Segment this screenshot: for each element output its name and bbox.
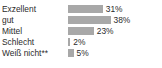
value-label-weiss-nicht: 5% (77, 48, 89, 59)
chart-title-remnant (2, 0, 72, 3)
chart-row-mittel: Mittel 23% (0, 26, 162, 37)
bar-track-exzellent: 31% (68, 5, 162, 14)
bar-gut (68, 16, 111, 24)
category-label-gut: gut (2, 15, 14, 26)
value-label-exzellent: 31% (106, 4, 123, 15)
chart-row-schlecht: Schlecht 2% (0, 37, 162, 48)
bar-track-gut: 38% (68, 16, 162, 25)
value-label-schlecht: 2% (73, 37, 85, 48)
value-label-mittel: 23% (97, 26, 114, 37)
chart-row-weiss-nicht: Weiß nicht** 5% (0, 48, 162, 59)
category-label-exzellent: Exzellent (2, 4, 36, 15)
chart-row-exzellent: Exzellent 31% (0, 4, 162, 15)
bar-exzellent (68, 5, 103, 13)
chart-row-gut: gut 38% (0, 15, 162, 26)
bar-weiss-nicht (68, 49, 74, 57)
bar-schlecht (68, 38, 70, 46)
value-label-gut: 38% (114, 15, 131, 26)
category-label-schlecht: Schlecht (2, 37, 34, 48)
category-label-mittel: Mittel (2, 26, 22, 37)
bar-track-schlecht: 2% (68, 38, 162, 47)
bar-track-weiss-nicht: 5% (68, 49, 162, 58)
chart-rows: Exzellent 31% gut 38% Mittel 23% Schlech… (0, 4, 162, 59)
category-label-weiss-nicht: Weiß nicht** (2, 48, 48, 59)
bar-track-mittel: 23% (68, 27, 162, 36)
bar-mittel (68, 27, 94, 35)
horizontal-bar-chart: Exzellent 31% gut 38% Mittel 23% Schlech… (0, 0, 162, 68)
